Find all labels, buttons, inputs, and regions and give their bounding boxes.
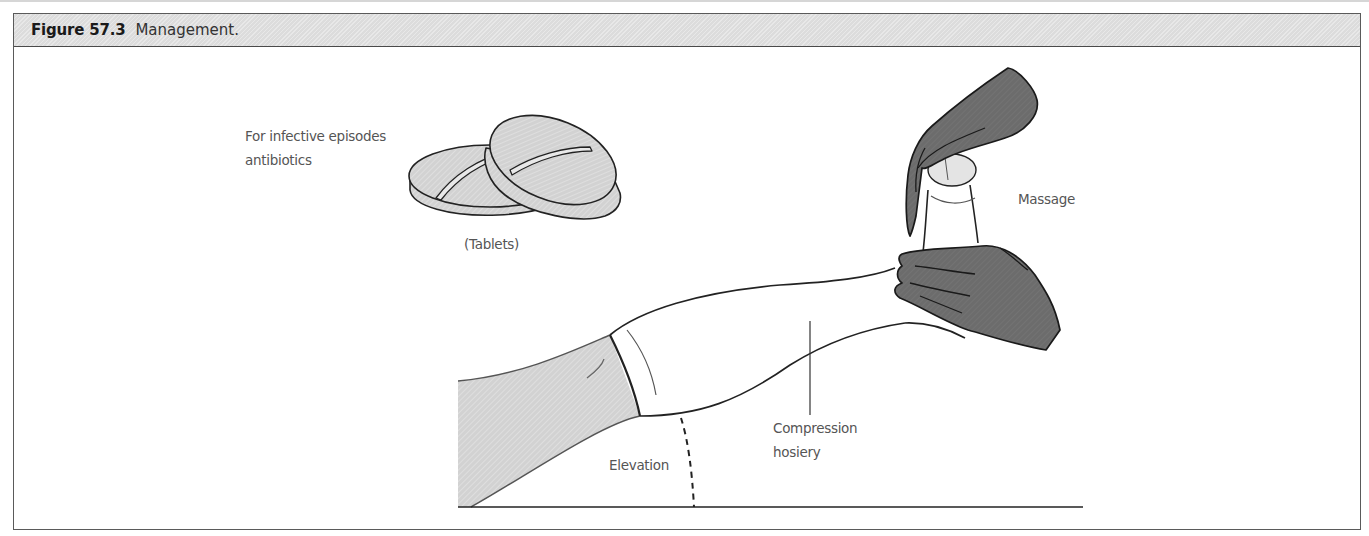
elevation-angle-arc xyxy=(681,418,694,507)
management-illustration xyxy=(0,0,1369,536)
compression-label-line1: Compression xyxy=(773,416,857,440)
antibiotics-label-line1: For infective episodes xyxy=(245,124,386,148)
tablets-label: (Tablets) xyxy=(464,232,519,256)
antibiotics-label: For infective episodes antibiotics xyxy=(245,124,386,172)
tablets-icon xyxy=(409,98,629,222)
compression-hosiery-label: Compression hosiery xyxy=(773,416,857,464)
elevation-label: Elevation xyxy=(609,453,669,477)
lower-gloved-hand-icon xyxy=(895,246,1060,350)
massage-label: Massage xyxy=(1018,187,1075,211)
antibiotics-label-line2: antibiotics xyxy=(245,148,386,172)
compression-label-line2: hosiery xyxy=(773,440,857,464)
